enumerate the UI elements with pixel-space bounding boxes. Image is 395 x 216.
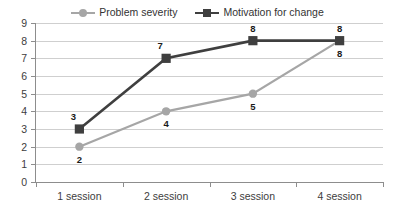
data-point-square-marker [162, 54, 171, 63]
data-point-label: 8 [332, 49, 348, 59]
series-line-2 [79, 41, 339, 129]
data-point-label: 7 [152, 41, 168, 51]
data-point-label: 5 [245, 102, 261, 112]
data-point-label: 3 [65, 112, 81, 122]
data-point-label: 8 [332, 24, 348, 34]
data-point-circle-marker [162, 107, 170, 115]
data-point-label: 2 [71, 155, 87, 165]
data-point-square-marker [248, 36, 257, 45]
data-point-label: 4 [158, 119, 174, 129]
data-point-square-marker [335, 36, 344, 45]
series-line-1 [79, 41, 339, 147]
data-point-circle-marker [75, 142, 83, 150]
data-point-label: 8 [245, 24, 261, 34]
data-point-square-marker [75, 124, 84, 133]
data-point-circle-marker [249, 89, 257, 97]
line-chart: Problem severity Motivation for change 0… [0, 0, 395, 216]
